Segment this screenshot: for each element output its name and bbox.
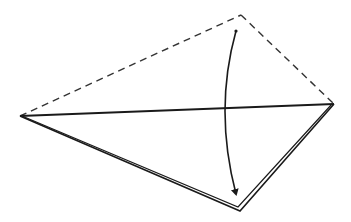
fold-line xyxy=(20,104,334,116)
origami-fold-diagram xyxy=(0,0,351,222)
bottom-edge-outer xyxy=(20,104,334,211)
bottom-edges xyxy=(20,104,334,211)
dashed-top-flap xyxy=(20,15,334,116)
bottom-edge-inner xyxy=(22,104,332,207)
dashed-edge-right xyxy=(241,15,334,104)
fold-arrow-icon xyxy=(225,31,236,194)
dashed-edge-left xyxy=(20,15,241,116)
